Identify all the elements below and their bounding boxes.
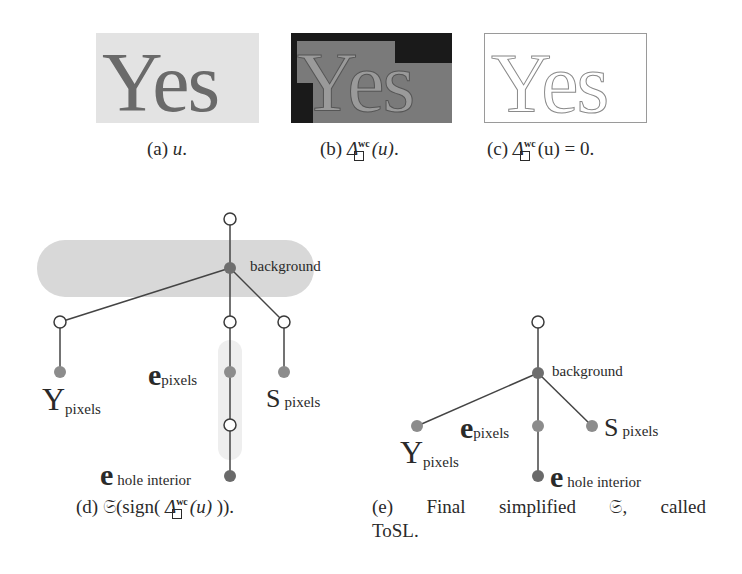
caption-sup: wc (176, 496, 188, 507)
pixels-text: pixels (284, 394, 320, 410)
hole-interior-text: hole interior (567, 474, 641, 490)
letter-y: Y (42, 381, 65, 417)
square-subscript-icon (172, 509, 182, 519)
caption-arg: (u) (190, 496, 212, 517)
letter-e: e (148, 358, 161, 391)
d-hole-label: ehole interior (100, 460, 191, 490)
d-right-hollow-node (278, 316, 290, 328)
d-mid-hollow-node (224, 316, 236, 328)
e-y-node (411, 420, 423, 432)
letter-s: S (604, 413, 618, 442)
d-s-node (278, 366, 290, 378)
caption-label: (e) (372, 496, 393, 518)
e-s-node (586, 420, 598, 432)
letter-s: S (266, 384, 280, 413)
caption-word: simplified (499, 496, 576, 518)
d-e-node (224, 366, 236, 378)
d-background-node (224, 262, 236, 274)
d-left-hollow-node (54, 316, 66, 328)
caption-word: Final (427, 496, 466, 518)
pixels-text: pixels (473, 425, 509, 441)
caption-label: (d) (76, 496, 98, 517)
e-background-node (532, 367, 544, 379)
pixels-text: pixels (161, 372, 197, 388)
caption-end: )). (217, 496, 234, 517)
e-root-node (532, 316, 544, 328)
letter-e: e (100, 458, 113, 491)
e-e-label: epixels (460, 413, 509, 443)
pixels-text: pixels (423, 454, 459, 470)
letter-e: e (460, 411, 473, 444)
e-s-label: Spixels (604, 413, 658, 443)
d-e-label: epixels (148, 360, 197, 390)
d-root-node (224, 213, 236, 225)
e-hole-label: ehole interior (550, 462, 641, 492)
d-y-label: Ypixels (42, 383, 101, 415)
caption-sign: (sign( (116, 496, 160, 517)
hole-interior-text: hole interior (117, 472, 191, 488)
d-hole-hollow-node (224, 419, 236, 431)
pixels-text: pixels (65, 401, 101, 417)
caption-fraktur-s: 𝔖, (609, 496, 627, 518)
e-e-node (532, 420, 544, 432)
d-background-label: background (250, 258, 321, 275)
d-hole-node (224, 470, 236, 482)
e-y-label: Ypixels (400, 436, 459, 468)
letter-e: e (550, 460, 563, 493)
caption-fraktur-s: 𝔖 (103, 496, 116, 517)
e-background-label: background (552, 363, 623, 380)
caption-line-1: (e) Final simplified 𝔖, called (372, 496, 706, 518)
e-hole-node (532, 470, 544, 482)
d-y-node (54, 366, 66, 378)
caption-line-2: ToSL. (372, 520, 706, 542)
caption-word: called (661, 496, 706, 518)
d-s-label: Spixels (266, 384, 320, 414)
panel-d-caption: (d) 𝔖(sign( Δwc(u) )). (76, 496, 234, 518)
pixels-text: pixels (622, 423, 658, 439)
letter-y: Y (400, 434, 423, 470)
panel-e-caption: (e) Final simplified 𝔖, called ToSL. (372, 496, 706, 542)
